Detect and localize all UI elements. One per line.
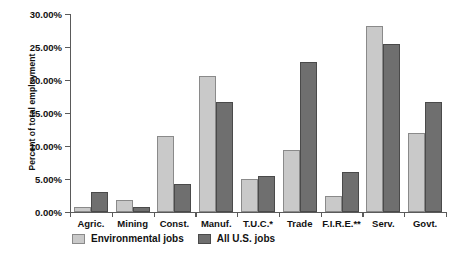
legend-label: All U.S. jobs <box>217 233 275 244</box>
x-axis-tick <box>112 212 113 217</box>
x-axis-tick <box>446 212 447 217</box>
bar <box>325 196 342 212</box>
x-axis-tick <box>237 212 238 217</box>
bar <box>283 150 300 212</box>
y-axis-tick-label: 5.00% <box>35 174 62 185</box>
bar <box>408 133 425 212</box>
y-axis-tick-label: 15.00% <box>30 108 62 119</box>
legend-item: Environmental jobs <box>72 233 184 244</box>
y-axis-tick-label: 20.00% <box>30 75 62 86</box>
x-axis-tick <box>362 212 363 217</box>
bar <box>157 136 174 212</box>
bar <box>74 207 91 212</box>
x-axis-tick-label: Trade <box>287 218 312 229</box>
x-axis-tick <box>195 212 196 217</box>
x-axis-line <box>70 212 446 213</box>
bar <box>300 62 317 212</box>
bar <box>258 176 275 212</box>
x-axis-tick-label: T.U.C.* <box>243 218 273 229</box>
x-axis-tick <box>404 212 405 217</box>
bar <box>216 102 233 212</box>
bars-layer <box>70 14 446 212</box>
bar <box>116 200 133 212</box>
x-axis-tick-label: F.I.R.E.** <box>322 218 361 229</box>
bar <box>133 207 150 212</box>
x-axis-tick <box>321 212 322 217</box>
x-axis-tick-label: Manuf. <box>201 218 232 229</box>
legend-label: Environmental jobs <box>91 233 184 244</box>
legend-swatch-icon <box>198 234 211 244</box>
x-axis-tick-label: Const. <box>160 218 190 229</box>
bar <box>91 192 108 212</box>
bar <box>383 44 400 212</box>
x-axis-tick-label: Govt. <box>413 218 437 229</box>
plot-area: 0.00%5.00%10.00%15.00%20.00%25.00%30.00%… <box>70 14 446 212</box>
legend-swatch-icon <box>72 234 85 244</box>
x-axis-tick <box>70 212 71 217</box>
y-axis-tick-label: 0.00% <box>35 207 62 218</box>
chart-legend: Environmental jobsAll U.S. jobs <box>72 233 275 244</box>
x-axis-tick-label: Agric. <box>77 218 104 229</box>
y-axis-tick-label: 25.00% <box>30 42 62 53</box>
x-axis-tick-label: Mining <box>117 218 148 229</box>
bar-chart: Percent of total employment 0.00%5.00%10… <box>0 0 450 258</box>
bar <box>342 172 359 212</box>
x-axis-tick-label: Serv. <box>372 218 395 229</box>
bar <box>174 184 191 212</box>
bar <box>366 26 383 212</box>
bar <box>241 179 258 212</box>
legend-item: All U.S. jobs <box>198 233 275 244</box>
bar <box>425 102 442 212</box>
y-axis-tick-label: 30.00% <box>30 9 62 20</box>
x-axis-tick <box>279 212 280 217</box>
bar <box>199 76 216 212</box>
y-axis-tick-label: 10.00% <box>30 141 62 152</box>
x-axis-tick <box>154 212 155 217</box>
